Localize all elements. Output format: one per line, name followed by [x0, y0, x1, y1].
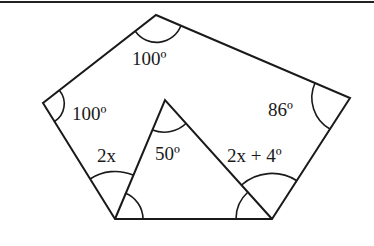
- angle-arc-bottom-left-outer: [90, 171, 133, 179]
- geometry-diagram: 100º 100º 86º 50º 2x 2x + 4º: [0, 0, 374, 246]
- angle-arc-triangle-apex: [153, 123, 187, 132]
- label-angle-bottom-left-outer: 2x: [97, 145, 117, 166]
- label-angle-top: 100º: [132, 48, 167, 69]
- label-angle-left: 100º: [72, 103, 107, 124]
- angle-arc-bottom-left-inner: [125, 193, 143, 219]
- angle-arc-bottom-right-inner: [236, 192, 248, 219]
- label-angle-bottom-right-outer: 2x + 4º: [227, 145, 282, 166]
- label-angle-right: 86º: [268, 99, 293, 120]
- angle-arc-bottom-right-outer: [242, 173, 297, 185]
- label-angle-triangle-apex: 50º: [155, 143, 180, 164]
- angle-arc-left: [55, 91, 65, 122]
- angle-arc-right: [312, 83, 330, 129]
- angle-arc-top: [136, 26, 182, 43]
